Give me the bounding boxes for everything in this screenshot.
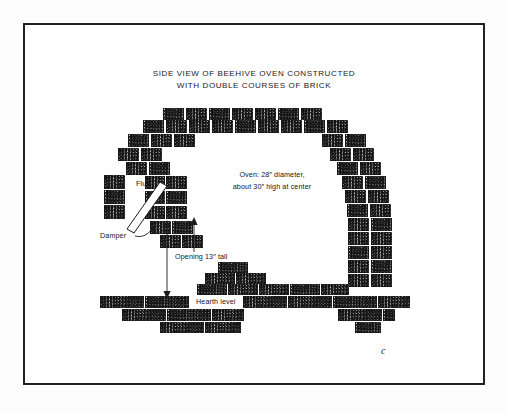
brick-dome-left <box>163 108 184 120</box>
brick-hearth-rows <box>243 296 287 308</box>
brick-dome-right <box>371 246 392 259</box>
brick-hearth-rows <box>383 309 395 321</box>
figure-title: SIDE VIEW OF BEEHIVE OVEN CONSTRUCTED WI… <box>0 68 508 92</box>
opening-label: Opening 13″ tall <box>175 252 228 261</box>
brick-dome-right <box>348 232 369 245</box>
brick-dome-left <box>182 235 203 248</box>
brick-dome-left <box>145 206 165 219</box>
diagram-linework <box>0 0 508 414</box>
brick-dome-right <box>327 120 348 133</box>
brick-dome-top <box>278 108 299 120</box>
brick-mouth-slope <box>321 284 349 295</box>
brick-dome-top <box>281 120 302 133</box>
brick-dome-top <box>209 108 230 120</box>
brick-dome-left <box>160 235 181 248</box>
brick-dome-right <box>371 218 392 231</box>
brick-mouth-slope <box>290 284 320 295</box>
brick-dome-right <box>348 274 369 287</box>
damper-label: Damper <box>100 231 126 240</box>
brick-dome-left <box>149 162 170 175</box>
brick-dome-left <box>186 108 207 120</box>
brick-dome-left <box>126 162 147 175</box>
brick-dome-left <box>145 191 165 204</box>
brick-dome-right <box>371 232 392 245</box>
flue-label: Flue <box>136 179 150 188</box>
brick-hearth-rows <box>355 322 381 333</box>
brick-dome-right <box>330 148 351 161</box>
brick-mouth-slope <box>205 273 235 284</box>
brick-dome-right <box>337 162 358 175</box>
figure-title-line-2: WITH DOUBLE COURSES OF BRICK <box>0 80 508 92</box>
figure-title-line-1: SIDE VIEW OF BEEHIVE OVEN CONSTRUCTED <box>0 68 508 80</box>
brick-hearth-rows <box>333 296 377 308</box>
brick-hearth-rows <box>167 309 211 321</box>
brick-dome-right <box>371 274 392 287</box>
brick-dome-left <box>143 120 164 133</box>
brick-dome-left <box>166 176 187 189</box>
brick-dome-left <box>151 134 172 147</box>
brick-mouth-slope <box>228 284 258 295</box>
brick-mouth-slope <box>259 284 289 295</box>
brick-hearth-rows <box>145 296 189 308</box>
brick-dome-left <box>141 148 162 161</box>
beehive-oven-diagram: SIDE VIEW OF BEEHIVE OVEN CONSTRUCTED WI… <box>0 0 508 414</box>
brick-hearth-rows <box>100 296 144 308</box>
brick-dome-left <box>166 191 187 204</box>
brick-hearth-rows <box>160 322 204 333</box>
brick-dome-top <box>255 108 276 120</box>
brick-dome-right <box>348 218 369 231</box>
oven-note-line-2: about 30″ high at center <box>233 182 311 191</box>
oven-dimension-note: Oven: 28″ diameter, about 30″ high at ce… <box>214 169 330 192</box>
brick-dome-left <box>118 148 139 161</box>
brick-dome-right <box>353 148 374 161</box>
brick-dome-left <box>104 190 125 204</box>
brick-dome-right <box>348 260 369 273</box>
brick-mouth-slope <box>236 273 266 284</box>
brick-dome-top <box>212 120 233 133</box>
brick-dome-left <box>174 134 195 147</box>
brick-dome-top <box>304 120 325 133</box>
brick-dome-left <box>172 221 193 234</box>
brick-dome-left <box>166 120 187 133</box>
artist-signature: c <box>381 345 385 356</box>
brick-hearth-rows <box>378 296 410 308</box>
brick-mouth-slope <box>218 262 248 273</box>
brick-hearth-rows <box>122 309 166 321</box>
brick-dome-left <box>150 221 171 234</box>
brick-dome-right <box>345 134 366 147</box>
hearth-level-label: Hearth level <box>196 297 236 306</box>
brick-hearth-rows <box>338 309 382 321</box>
brick-dome-top <box>232 108 253 120</box>
brick-mouth-slope <box>197 284 227 295</box>
brick-dome-right <box>348 246 369 259</box>
brick-dome-left <box>104 205 125 219</box>
brick-dome-right <box>360 162 381 175</box>
brick-dome-right <box>347 204 368 217</box>
brick-dome-right <box>345 190 366 203</box>
brick-dome-top <box>235 120 256 133</box>
brick-hearth-rows <box>288 296 332 308</box>
brick-dome-right <box>370 204 391 217</box>
brick-dome-left <box>166 206 187 219</box>
oven-note-line-1: Oven: 28″ diameter, <box>239 170 304 179</box>
brick-hearth-rows <box>212 309 244 321</box>
brick-dome-left <box>104 175 125 189</box>
brick-dome-left <box>189 120 210 133</box>
brick-dome-right <box>322 134 343 147</box>
brick-dome-right <box>365 176 386 189</box>
brick-dome-right <box>371 260 392 273</box>
page-background: SIDE VIEW OF BEEHIVE OVEN CONSTRUCTED WI… <box>0 0 508 414</box>
brick-dome-left <box>128 134 149 147</box>
brick-dome-right <box>368 190 389 203</box>
brick-dome-right <box>342 176 363 189</box>
brick-hearth-rows <box>205 322 241 333</box>
brick-dome-top <box>301 108 322 120</box>
brick-dome-top <box>258 120 279 133</box>
